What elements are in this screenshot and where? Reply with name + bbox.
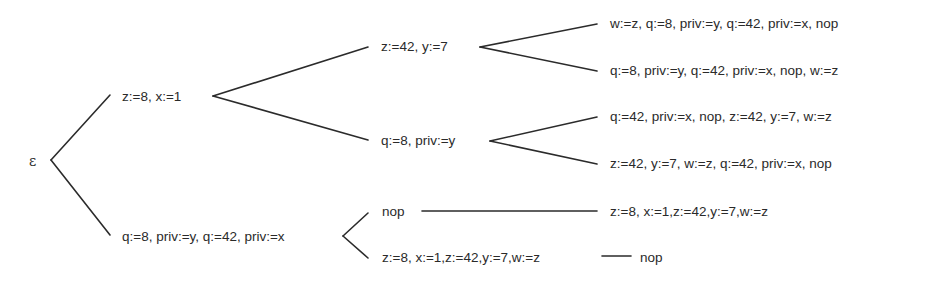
edge-zx-to-qpriv — [213, 96, 368, 140]
leaf-1: w:=z, q:=8, priv:=y, q:=42, priv:=x, nop — [610, 16, 838, 32]
root-node-epsilon: ε — [29, 153, 36, 169]
edge-qpqp-to-nop — [343, 213, 368, 236]
leaf-2: q:=8, priv:=y, q:=42, priv:=x, nop, w:=z — [610, 63, 838, 79]
leaf-4: z:=42, y:=7, w:=z, q:=42, priv:=x, nop — [610, 156, 832, 172]
edge-zy-to-leaf1 — [480, 24, 597, 47]
node-q8-priv-y: q:=8, priv:=y — [381, 133, 455, 149]
leaf-3: q:=42, priv:=x, nop, z:=42, y:=7, w:=z — [610, 109, 832, 125]
node-z42-y7: z:=42, y:=7 — [381, 39, 448, 55]
edge-qp-to-leaf3 — [490, 117, 597, 141]
edge-root-to-zx — [51, 95, 110, 160]
edge-zy-to-leaf2 — [480, 47, 597, 71]
node-nop: nop — [382, 204, 405, 220]
node-z8-x1-z42-y7-wz: z:=8, x:=1,z:=42,y:=7,w:=z — [382, 250, 540, 266]
edge-zx-to-zy — [213, 47, 368, 96]
leaf-6-nop: nop — [640, 250, 663, 266]
edge-qp-to-leaf4 — [490, 141, 597, 164]
leaf-5: z:=8, x:=1,z:=42,y:=7,w:=z — [610, 204, 768, 220]
node-z8-x1: z:=8, x:=1 — [122, 89, 181, 105]
node-q8-priv-y-q42-priv-x: q:=8, priv:=y, q:=42, priv:=x — [122, 229, 285, 245]
edge-root-to-qpriv — [51, 160, 110, 235]
edge-qpqp-to-zxzyw — [343, 236, 368, 258]
